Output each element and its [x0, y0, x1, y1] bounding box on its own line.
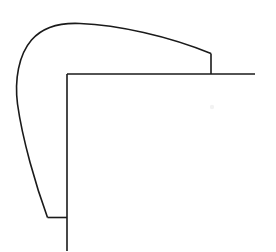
- faint-speck-mark: [210, 105, 214, 109]
- line-drawing-canvas: [0, 0, 276, 252]
- profile-drawing: [0, 0, 276, 252]
- outer-curve-path: [17, 23, 211, 217]
